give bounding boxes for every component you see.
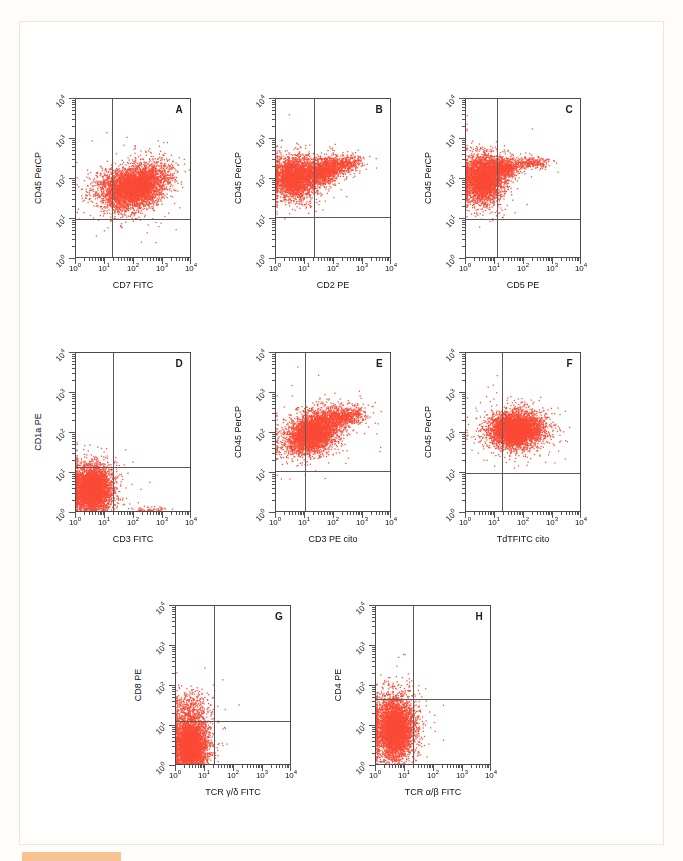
panel-c-event-cloud [466, 99, 581, 258]
panel-e-plot-area: E [275, 352, 391, 512]
x-tick-label: 102 [517, 265, 529, 273]
y-tick-label: 101 [55, 469, 69, 483]
panel-g-x-tick-labels: 100101102103104 [175, 772, 291, 786]
y-axis-title-text: CD45 PerCP [33, 152, 43, 204]
panel-b-plot-area: B [275, 98, 391, 258]
y-tick-label: 104 [255, 95, 269, 109]
dot-plot-grid: CD45 PerCPA10010110210310410010110210310… [0, 0, 683, 861]
panel-a-plot-area: A [75, 98, 191, 258]
y-tick-label: 101 [445, 215, 459, 229]
panel-b-y-axis-title: CD45 PerCP [231, 98, 245, 258]
x-tick-label: 101 [488, 265, 500, 273]
panel-c-horizontal-gate[interactable] [466, 219, 580, 220]
x-tick-label: 100 [459, 519, 471, 527]
panel-letter-d: D [175, 358, 183, 369]
panel-h-horizontal-gate[interactable] [376, 699, 490, 700]
y-tick-label: 103 [255, 135, 269, 149]
x-tick-label: 103 [356, 265, 368, 273]
panel-h-plot-area: H [375, 605, 491, 765]
panel-e-x-axis-title: CD3 PE cito [275, 534, 391, 544]
panel-b-horizontal-gate[interactable] [276, 217, 390, 218]
y-axis-title-text: CD45 PerCP [233, 152, 243, 204]
panel-f-y-tick-labels: 100101102103104 [455, 352, 456, 512]
x-tick-label: 101 [198, 772, 210, 780]
y-tick-label: 101 [55, 215, 69, 229]
x-tick-label: 100 [69, 519, 81, 527]
y-tick-label: 104 [445, 349, 459, 363]
panel-f-horizontal-gate[interactable] [466, 473, 580, 474]
panel-d-y-tick-labels: 100101102103104 [65, 352, 66, 512]
panel-f-vertical-gate[interactable] [502, 353, 503, 511]
panel-d-horizontal-gate[interactable] [76, 467, 190, 468]
y-tick-label: 104 [355, 602, 369, 616]
panel-e-horizontal-gate[interactable] [276, 471, 390, 472]
panel-g-horizontal-gate[interactable] [176, 721, 290, 722]
y-tick-label: 104 [55, 95, 69, 109]
panel-b-event-cloud [276, 99, 391, 258]
x-tick-label: 102 [227, 772, 239, 780]
x-tick-label: 102 [327, 265, 339, 273]
y-tick-label: 103 [55, 135, 69, 149]
y-tick-label: 102 [55, 175, 69, 189]
y-tick-label: 102 [255, 175, 269, 189]
panel-b-y-ticks [268, 98, 275, 258]
panel-a-x-axis-title: CD7 FITC [75, 280, 191, 290]
panel-h-x-tick-labels: 100101102103104 [375, 772, 491, 786]
panel-c-y-tick-labels: 100101102103104 [455, 98, 456, 258]
panel-d-event-cloud [76, 353, 191, 512]
panel-h-vertical-gate[interactable] [413, 606, 414, 764]
panel-d-x-tick-labels: 100101102103104 [75, 519, 191, 533]
x-tick-label: 103 [456, 772, 468, 780]
panel-b-x-axis-title: CD2 PE [275, 280, 391, 290]
panel-e-vertical-gate[interactable] [305, 353, 306, 511]
panel-d-x-axis-title: CD3 FITC [75, 534, 191, 544]
x-tick-label: 104 [575, 265, 587, 273]
panel-a-vertical-gate[interactable] [112, 99, 113, 257]
x-tick-label: 101 [398, 772, 410, 780]
y-axis-title-text: CD45 PerCP [233, 406, 243, 458]
x-tick-label: 104 [185, 265, 197, 273]
panel-letter-b: B [375, 104, 383, 115]
y-tick-label: 102 [255, 429, 269, 443]
panel-c-vertical-gate[interactable] [497, 99, 498, 257]
y-axis-title-text: CD1a PE [33, 413, 43, 451]
y-tick-label: 100 [255, 255, 269, 269]
x-tick-label: 102 [517, 519, 529, 527]
dot-plot-panel-c: CD45 PerCPC10010110210310410010110210310… [465, 98, 581, 258]
x-tick-label: 101 [98, 519, 110, 527]
panel-c-y-ticks [458, 98, 465, 258]
panel-g-plot-area: G [175, 605, 291, 765]
panel-a-y-axis-title: CD45 PerCP [31, 98, 45, 258]
panel-a-horizontal-gate[interactable] [76, 219, 190, 220]
panel-a-event-cloud [76, 99, 191, 258]
x-tick-label: 103 [546, 519, 558, 527]
panel-g-event-cloud [176, 606, 291, 765]
x-tick-label: 103 [356, 519, 368, 527]
dot-plot-panel-b: CD45 PerCPB10010110210310410010110210310… [275, 98, 391, 258]
x-tick-label: 104 [385, 265, 397, 273]
y-axis-title-text: CD45 PerCP [423, 406, 433, 458]
x-tick-label: 100 [459, 265, 471, 273]
x-tick-label: 103 [256, 772, 268, 780]
y-tick-label: 104 [445, 95, 459, 109]
x-tick-label: 104 [575, 519, 587, 527]
y-tick-label: 101 [155, 722, 169, 736]
panel-g-y-tick-labels: 100101102103104 [165, 605, 166, 765]
panel-letter-c: C [565, 104, 573, 115]
x-tick-label: 100 [269, 265, 281, 273]
panel-f-y-axis-title: CD45 PerCP [421, 352, 435, 512]
panel-d-y-axis-title: CD1a PE [31, 352, 45, 512]
panel-letter-a: A [175, 104, 183, 115]
y-tick-label: 100 [445, 509, 459, 523]
panel-g-vertical-gate[interactable] [214, 606, 215, 764]
x-tick-label: 102 [327, 519, 339, 527]
panel-f-event-cloud [466, 353, 581, 512]
panel-c-x-axis-title: CD5 PE [465, 280, 581, 290]
panel-b-vertical-gate[interactable] [314, 99, 315, 257]
panel-f-x-tick-labels: 100101102103104 [465, 519, 581, 533]
y-tick-label: 100 [55, 255, 69, 269]
dot-plot-panel-e: CD45 PerCPE10010110210310410010110210310… [275, 352, 391, 512]
panel-d-vertical-gate[interactable] [113, 353, 114, 511]
y-tick-label: 104 [155, 602, 169, 616]
panel-c-y-axis-title: CD45 PerCP [421, 98, 435, 258]
